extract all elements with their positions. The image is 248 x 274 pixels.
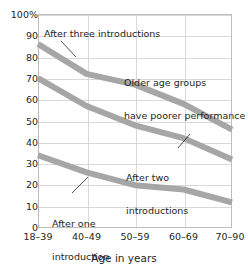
x-tick-label: 70–90 [216, 232, 245, 242]
annotation-after-three-introductions: After three introductions [44, 28, 160, 39]
y-tick-label: 50 [2, 117, 38, 127]
x-axis-label: Age in years [0, 252, 248, 264]
annotation-after-two-introductions: After two introductions [126, 150, 188, 238]
y-tick-label: 100% [2, 10, 38, 20]
y-tick-label: 70 [2, 74, 38, 84]
x-tick-label: 40–49 [72, 232, 101, 242]
y-tick-label: 20 [2, 180, 38, 190]
x-tick-label: 18–39 [24, 232, 53, 242]
y-tick-label: 10 [2, 202, 38, 212]
chart-container: 100% 90 80 70 60 50 40 30 20 10 0 After … [0, 0, 248, 274]
y-tick-label: 90 [2, 31, 38, 41]
annotation-older-age-groups: Older age groups have poorer performance [124, 55, 245, 143]
x-tick-label: 50–59 [121, 232, 150, 242]
annotation-older-line-1: Older age groups [124, 77, 245, 88]
x-tick-label: 60–69 [169, 232, 198, 242]
annotation-two-line-1: After two [126, 172, 188, 183]
annotation-one-line-1: After one [52, 218, 109, 229]
x-axis: 18–39 40–49 50–59 60–69 70–90 [0, 232, 248, 248]
annotation-two-line-2: introductions [126, 205, 188, 216]
y-tick-label: 40 [2, 138, 38, 148]
y-tick-label: 80 [2, 53, 38, 63]
y-tick-label: 30 [2, 159, 38, 169]
y-tick-label: 60 [2, 95, 38, 105]
annotation-older-line-2: have poorer performance [124, 110, 245, 121]
